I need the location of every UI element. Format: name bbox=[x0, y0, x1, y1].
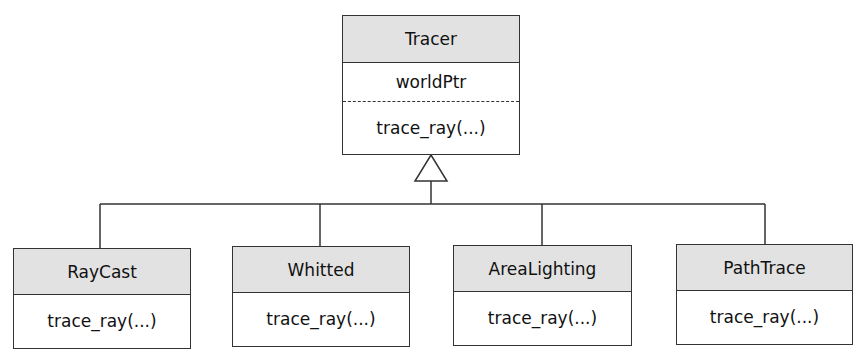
class-name: Tracer bbox=[343, 16, 519, 63]
class-pathtrace: PathTrace trace_ray(...) bbox=[676, 244, 853, 345]
class-name: AreaLighting bbox=[454, 246, 631, 292]
class-raycast: RayCast trace_ray(...) bbox=[13, 248, 191, 349]
method: trace_ray(...) bbox=[677, 291, 852, 343]
attribute: worldPtr bbox=[343, 63, 519, 102]
class-name: Whitted bbox=[233, 247, 409, 293]
method: trace_ray(...) bbox=[14, 295, 190, 347]
method: trace_ray(...) bbox=[233, 293, 409, 345]
method: trace_ray(...) bbox=[343, 102, 519, 153]
class-whitted: Whitted trace_ray(...) bbox=[232, 246, 410, 347]
method: trace_ray(...) bbox=[454, 292, 631, 344]
class-arealighting: AreaLighting trace_ray(...) bbox=[453, 245, 632, 346]
class-name: PathTrace bbox=[677, 245, 852, 291]
generalization-arrow-icon bbox=[415, 155, 447, 181]
class-tracer: Tracer worldPtr trace_ray(...) bbox=[342, 15, 520, 155]
class-name: RayCast bbox=[14, 249, 190, 295]
